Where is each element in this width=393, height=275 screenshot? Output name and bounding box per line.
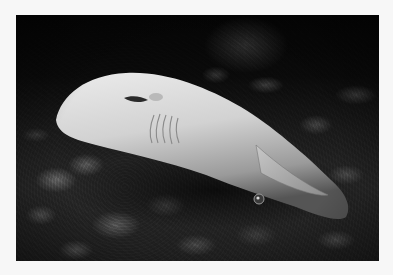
shark-eye-highlight	[256, 196, 259, 199]
page	[0, 0, 393, 275]
photograph	[16, 15, 379, 261]
body-scar	[149, 93, 163, 101]
shark-nostril	[317, 210, 322, 213]
shark-figure	[16, 15, 379, 261]
